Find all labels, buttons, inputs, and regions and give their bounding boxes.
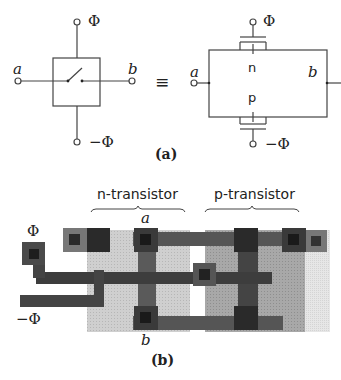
input-phi-label: Φ xyxy=(27,222,39,240)
terminal-b-label: b xyxy=(141,331,151,349)
n-brace xyxy=(91,206,185,212)
caption-b: (b) xyxy=(151,352,174,368)
p-brace xyxy=(205,206,299,212)
terminal-a-label: a xyxy=(141,209,150,227)
input-neg-phi-label: −Φ xyxy=(16,310,41,328)
layout-drawing xyxy=(0,0,341,380)
